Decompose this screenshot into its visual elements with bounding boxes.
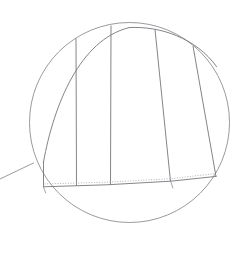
seam-line-2 — [76, 39, 77, 186]
seam-line-3 — [111, 26, 112, 185]
figure-background — [0, 0, 244, 263]
drawing-canvas — [0, 0, 244, 263]
detail-callout-figure — [0, 0, 244, 263]
